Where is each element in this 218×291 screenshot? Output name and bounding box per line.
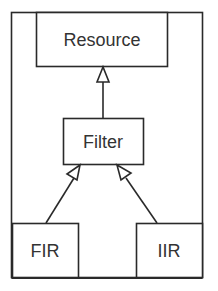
node-fir: FIR	[13, 224, 79, 278]
node-iir-label: IIR	[157, 241, 180, 261]
node-fir-label: FIR	[31, 241, 60, 261]
generalization-arrow-icon	[67, 165, 80, 180]
node-iir: IIR	[137, 224, 203, 278]
generalization-arrow-icon	[97, 67, 109, 82]
edge-filter-to-resource	[97, 67, 109, 118]
class-diagram: Resource Filter FIR IIR	[0, 0, 218, 291]
node-filter: Filter	[64, 119, 144, 165]
generalization-arrow-icon	[117, 165, 131, 180]
node-filter-label: Filter	[83, 132, 123, 152]
edge-iir-to-filter	[117, 165, 157, 223]
node-resource-label: Resource	[63, 30, 140, 50]
node-resource: Resource	[37, 13, 168, 67]
edge-fir-to-filter	[46, 165, 80, 223]
